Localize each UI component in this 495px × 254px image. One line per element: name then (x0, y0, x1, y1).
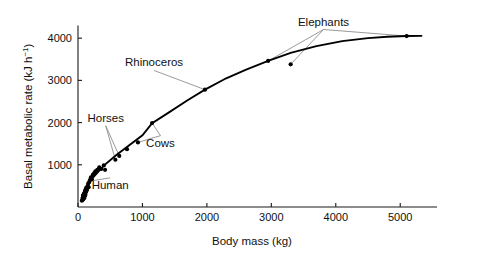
x-tick-label: 4000 (324, 211, 348, 223)
y-tick-label: 2000 (48, 117, 72, 129)
annotation-label-horses: Horses (87, 112, 124, 124)
data-point (102, 163, 106, 167)
y-tick-label: 4000 (48, 32, 72, 44)
data-point (289, 62, 293, 66)
x-tick-label: 1000 (130, 211, 154, 223)
data-point (87, 185, 91, 189)
y-axis-title: Basal metabolic rate (kJ h−1) (21, 43, 34, 188)
leader-line (268, 30, 323, 61)
data-point (150, 121, 154, 125)
leader-line (106, 126, 116, 160)
leader-line (106, 126, 120, 156)
data-point (103, 168, 107, 172)
x-axis-title: Body mass (kg) (212, 235, 292, 247)
x-tick-label: 2000 (195, 211, 219, 223)
data-point (99, 167, 103, 171)
data-point (203, 88, 207, 92)
data-point (113, 158, 117, 162)
annotation-label-cows: Cows (146, 137, 175, 149)
annotation-label-rhinoceros: Rhinoceros (125, 56, 183, 68)
annotation-label-human: Human (92, 179, 129, 191)
x-tick-label: 3000 (259, 211, 283, 223)
x-tick-label: 5000 (388, 211, 412, 223)
data-point (136, 140, 140, 144)
annotation-leader-lines (91, 30, 406, 181)
metabolic-rate-scatter-figure: 0100020003000400050001000200030004000 El… (0, 0, 495, 254)
tick-labels: 0100020003000400050001000200030004000 (48, 32, 413, 223)
y-tick-label: 3000 (48, 74, 72, 86)
data-point (125, 147, 129, 151)
data-point (405, 34, 409, 38)
annotation-label-elephants: Elephants (298, 16, 349, 28)
axes (78, 26, 437, 208)
annotation-labels: ElephantsRhinocerosHorsesCowsHuman (87, 16, 349, 191)
leader-line (291, 30, 324, 65)
leader-line (154, 70, 205, 89)
x-tick-label: 0 (75, 211, 81, 223)
leader-line (324, 30, 407, 37)
data-point (266, 59, 270, 63)
y-tick-label: 1000 (48, 159, 72, 171)
data-point (117, 154, 121, 158)
chart-canvas: 0100020003000400050001000200030004000 El… (0, 0, 495, 254)
leader-line (152, 123, 160, 136)
